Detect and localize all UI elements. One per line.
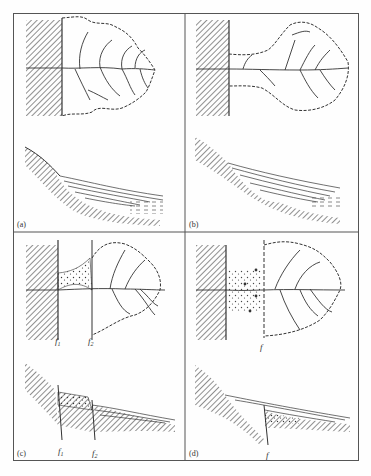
- panel-d-cross-section: [195, 365, 350, 445]
- panel-b-plan-view: [196, 20, 348, 116]
- panel-d-label: (d): [189, 449, 199, 458]
- fault-label-f-section: f: [266, 450, 270, 460]
- panel-c-plan-view: [26, 240, 165, 340]
- panel-d-plan-view: [196, 240, 345, 340]
- tributaries: [75, 32, 148, 100]
- catchment-boundary: [229, 22, 348, 110]
- panel-a-label: (a): [17, 220, 26, 229]
- panel-c: f1 f2 (c) f1 f2: [17, 240, 175, 459]
- figure-canvas: (a) (b) f1 f2: [0, 0, 371, 476]
- panel-b-cross-section: [195, 137, 340, 224]
- catchment-boundary: [264, 242, 341, 336]
- bedrock-hatch: [196, 245, 226, 340]
- panel-a-plan-view: [26, 17, 155, 116]
- panel-b: (b): [189, 20, 348, 229]
- panel-b-label: (b): [189, 220, 199, 229]
- alluvial-fan-deposit: [58, 258, 92, 290]
- panel-a: (a): [17, 17, 163, 229]
- bedrock-hatch: [196, 20, 229, 116]
- panel-d: f (d) f: [189, 240, 350, 460]
- fault-label-f1-section: f1: [58, 446, 64, 457]
- fault-label-f-plan: f: [260, 342, 264, 352]
- panel-c-cross-section: [25, 363, 175, 440]
- bedrock-hatch: [26, 245, 58, 340]
- fan-deposit-dots: [228, 270, 262, 312]
- tributaries: [243, 31, 335, 98]
- fault-label-f2-plan: f2: [88, 336, 94, 347]
- catchment-boundary: [62, 17, 155, 116]
- panel-a-cross-section: [25, 147, 163, 226]
- main-channel: [196, 290, 345, 291]
- panel-c-label: (c): [17, 449, 26, 458]
- fault-label-f2-section: f2: [92, 448, 98, 459]
- tributaries: [110, 250, 158, 315]
